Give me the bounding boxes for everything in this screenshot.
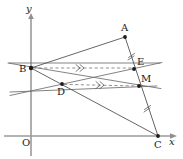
vertex-dots-group — [29, 35, 160, 138]
label-origin: O — [22, 138, 30, 148]
label-point-C: C — [154, 140, 162, 150]
line-through-D — [10, 86, 157, 92]
segment-DM-arrow-marker — [96, 82, 104, 89]
geometry-figure: A B C D E M O y x — [0, 0, 183, 159]
geometry-canvas — [0, 0, 183, 159]
point-B — [29, 66, 33, 70]
point-M — [137, 84, 141, 88]
segment-BE-arrow-marker — [76, 65, 84, 72]
label-point-M: M — [141, 74, 151, 84]
dashed-segments-group — [33, 65, 137, 89]
tick-on-AE — [128, 56, 134, 60]
tick-on-MC-2 — [145, 106, 151, 110]
axes-group — [4, 13, 177, 156]
point-A — [123, 35, 127, 39]
label-point-D: D — [57, 87, 65, 97]
label-x-axis: x — [169, 137, 175, 147]
label-point-E: E — [137, 57, 144, 67]
label-point-A: A — [121, 23, 128, 33]
label-y-axis: y — [26, 4, 32, 14]
label-point-B: B — [19, 64, 26, 74]
point-C — [156, 134, 160, 138]
point-E — [132, 67, 136, 71]
